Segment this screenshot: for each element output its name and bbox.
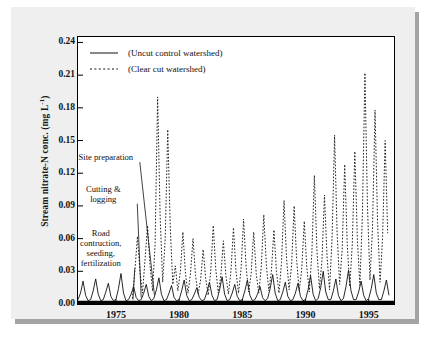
annotation-leader-line — [137, 204, 141, 298]
chart-legend: (Uncut control watershed)(Clear cut wate… — [90, 48, 222, 74]
chart-annotation: Cutting &logging — [86, 184, 121, 204]
figure-plate: Stream nitrate-N conc. (mg L-1) 0.240.21… — [11, 7, 415, 319]
x-axis-tick-label: 1990 — [283, 309, 329, 320]
figure-inner: Stream nitrate-N conc. (mg L-1) 0.240.21… — [11, 7, 415, 319]
chart-annotation: Roadcontruction,seeding,fertilization — [80, 228, 121, 268]
y-axis-tick-label: 0.06 — [45, 233, 75, 243]
x-axis-tick-label: 1995 — [346, 309, 392, 320]
series-uncut-control-watershed — [78, 270, 389, 301]
y-axis-tick-label: 0.15 — [45, 135, 75, 145]
x-axis-tick-label: 1975 — [93, 309, 139, 320]
y-axis-tick-label: 0.03 — [45, 265, 75, 275]
legend-label: (Clear cut watershed) — [128, 64, 205, 74]
annotation-layer: Site preparationCutting &loggingRoadcont… — [78, 152, 154, 299]
y-axis-tick-label: 0.24 — [45, 36, 75, 46]
y-axis-tick-label: 0.21 — [45, 69, 75, 79]
y-axis-tick-label: 0.09 — [45, 200, 75, 210]
chart-svg: Site preparationCutting &loggingRoadcont… — [78, 37, 394, 304]
x-axis-tick-label: 1985 — [219, 309, 265, 320]
y-axis-tick-label: 0.12 — [45, 167, 75, 177]
y-axis-tick-labels: 0.240.210.180.150.120.090.060.030.00 — [39, 7, 75, 319]
series-clear-cut-watershed — [132, 73, 387, 299]
x-axis-tick-label: 1980 — [156, 309, 202, 320]
annotation-leader-line — [140, 162, 155, 295]
axis-tick-marks — [78, 42, 394, 304]
legend-label: (Uncut control watershed) — [128, 48, 222, 58]
y-axis-tick-label: 0.00 — [45, 298, 75, 308]
y-axis-tick-label: 0.18 — [45, 102, 75, 112]
figure-root: Stream nitrate-N conc. (mg L-1) 0.240.21… — [0, 0, 427, 355]
chart-annotation: Site preparation — [78, 152, 133, 162]
plot-area: Site preparationCutting &loggingRoadcont… — [77, 36, 395, 305]
